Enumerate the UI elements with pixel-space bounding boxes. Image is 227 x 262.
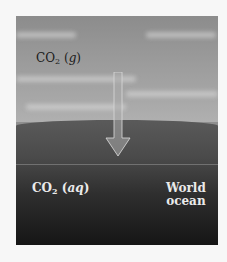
formula-text: CO	[36, 51, 55, 65]
phase-text: aq	[67, 181, 83, 195]
formula-text: CO	[32, 181, 52, 195]
ocean-depth-line	[16, 164, 218, 165]
world-ocean-label: World ocean	[166, 182, 206, 208]
paren-open: (	[58, 181, 68, 195]
cloud	[126, 91, 218, 97]
world-ocean-line2: ocean	[166, 195, 206, 208]
paren-close: )	[76, 51, 81, 65]
co2-gas-label: CO2 (g)	[36, 52, 81, 65]
co2-aqueous-label: CO2 (aq)	[32, 182, 89, 195]
down-arrow-icon	[105, 72, 131, 158]
cloud	[146, 32, 216, 38]
cloud	[16, 32, 76, 38]
paren-open: (	[60, 51, 69, 65]
co2-ocean-diagram: CO2 (g) CO2 (aq) World ocean	[16, 16, 218, 245]
paren-close: )	[84, 181, 90, 195]
